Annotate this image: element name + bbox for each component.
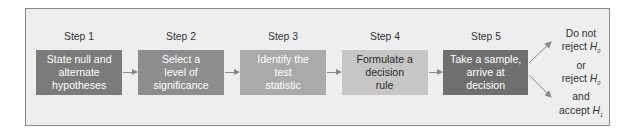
decision-outcome: Do not reject H0 or reject H0 and accept… bbox=[556, 27, 606, 122]
arrow-up-branch bbox=[529, 42, 551, 63]
outcome-line-3: or bbox=[559, 59, 604, 72]
outcome-line-1: Do not bbox=[559, 27, 604, 40]
outcome-line-4: reject H0 bbox=[559, 72, 604, 91]
outcome-line-6: accept H1 bbox=[559, 104, 604, 123]
outcome-line-2: reject H0 bbox=[559, 40, 604, 59]
branch-arrows bbox=[0, 0, 631, 135]
arrow-down-branch bbox=[529, 75, 551, 97]
outcome-line-5: and bbox=[559, 90, 604, 103]
